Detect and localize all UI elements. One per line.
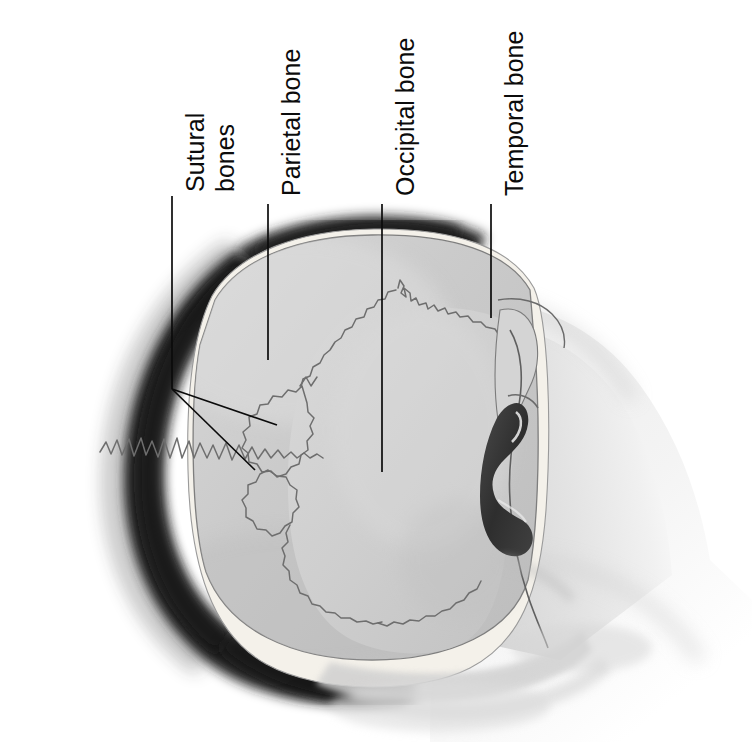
label-occipital-bone: Occipital bone [391,38,420,196]
label-temporal-bone: Temporal bone [500,31,529,196]
label-sutural-bones-line2: bones [211,124,240,192]
illustration-canvas: Sutural bones Parietal bone Occipital bo… [0,0,752,742]
label-sutural-bones-line1: Sutural [181,113,210,192]
label-parietal-bone: Parietal bone [277,49,306,196]
skull-anatomy-illustration [0,0,752,742]
